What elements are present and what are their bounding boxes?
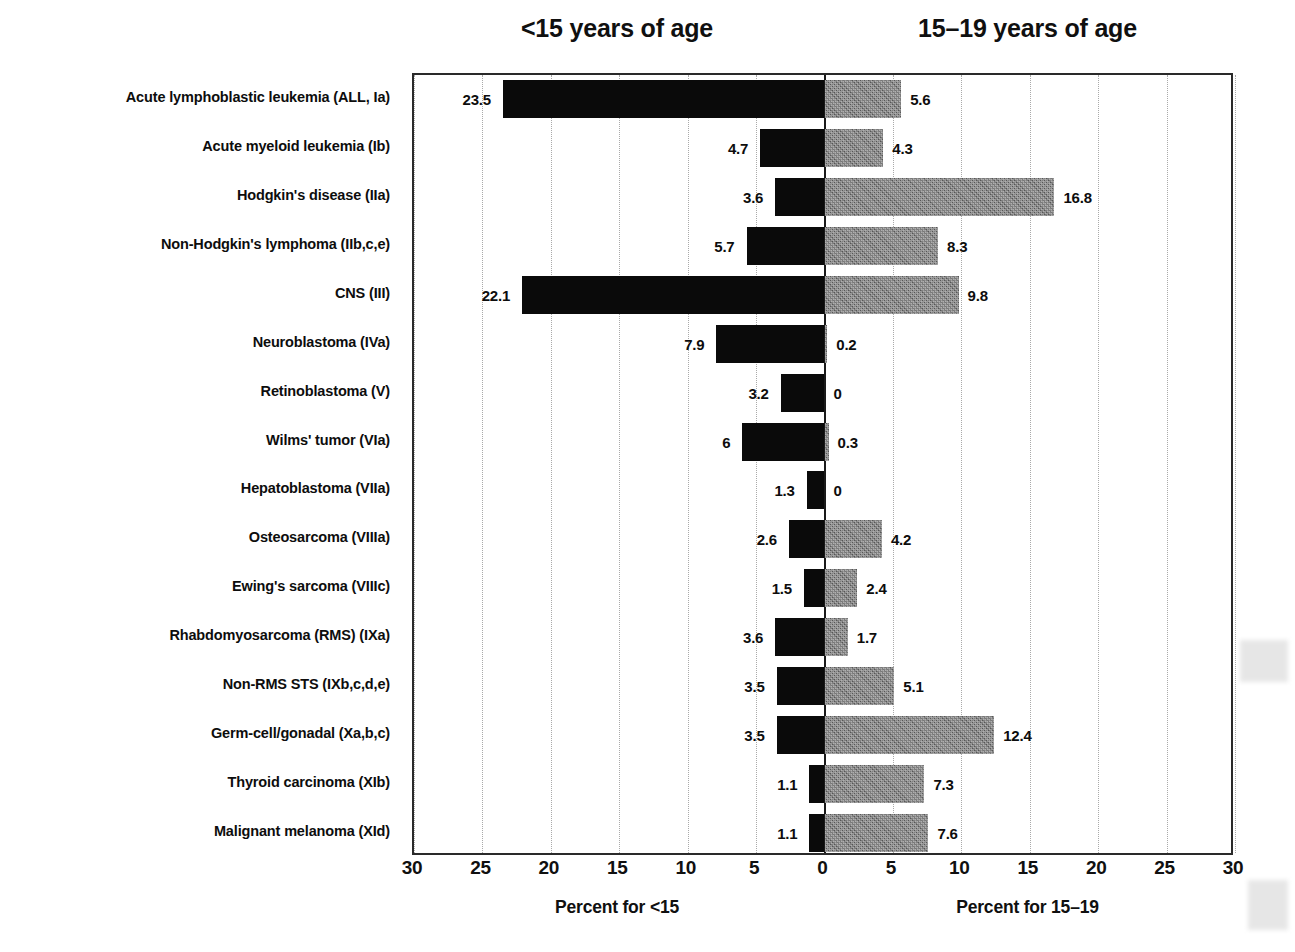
bar-value-label-left: 1.1: [777, 775, 797, 792]
bar-value-label-left: 3.5: [744, 677, 764, 694]
bar-right: [825, 618, 848, 656]
bar-left: [789, 520, 825, 558]
chart-row: 1.52.4: [414, 569, 1231, 607]
bar-right: [825, 227, 939, 265]
bar-value-label-left: 1.3: [774, 482, 794, 499]
bar-value-label-right: 8.3: [947, 238, 967, 255]
category-axis-labels: Acute lymphoblastic leukemia (ALL, Ia)Ac…: [0, 73, 400, 855]
bar-value-label-left: 5.7: [714, 238, 734, 255]
category-label: CNS (III): [335, 285, 390, 301]
bar-value-label-right: 0.2: [836, 335, 856, 352]
axis-title-left: Percent for <15: [412, 897, 822, 918]
chart-row: 4.74.3: [414, 129, 1231, 167]
chart-row: 1.17.6: [414, 814, 1231, 852]
bar-value-label-left: 3.6: [743, 189, 763, 206]
category-label: Germ-cell/gonadal (Xa,b,c): [211, 725, 390, 741]
category-label: Acute lymphoblastic leukemia (ALL, Ia): [126, 89, 390, 105]
bar-right: [825, 569, 858, 607]
bar-value-label-left: 1.1: [777, 824, 797, 841]
bar-value-label-left: 22.1: [482, 286, 510, 303]
x-tick-label: 30: [1223, 857, 1244, 879]
category-label: Acute myeloid leukemia (Ib): [202, 138, 390, 154]
bar-value-label-right: 12.4: [1003, 726, 1031, 743]
category-label: Neuroblastoma (IVa): [253, 334, 390, 350]
bar-right: [825, 520, 882, 558]
chart-row: 23.55.6: [414, 80, 1231, 118]
bar-value-label-left: 3.5: [744, 726, 764, 743]
bar-value-label-left: 23.5: [463, 91, 491, 108]
category-label: Non-Hodgkin's lymphoma (IIb,c,e): [161, 236, 390, 252]
column-header-right: 15–19 years of age: [822, 14, 1233, 43]
chart-row: 3.61.7: [414, 618, 1231, 656]
bar-value-label-right: 7.3: [933, 775, 953, 792]
x-axis-tick-labels: 30252015105051015202530: [412, 857, 1233, 891]
bar-value-label-right: 4.2: [891, 531, 911, 548]
scan-artifact: [1248, 880, 1288, 930]
category-label: Malignant melanoma (XId): [214, 823, 390, 839]
bar-value-label-right: 0: [834, 384, 842, 401]
bar-left: [716, 325, 824, 363]
x-tick-label: 0: [817, 857, 827, 879]
category-label: Hepatoblastoma (VIIa): [241, 480, 390, 496]
bar-value-label-right: 2.4: [866, 580, 886, 597]
bar-value-label-right: 16.8: [1063, 189, 1091, 206]
category-label: Osteosarcoma (VIIIa): [249, 529, 390, 545]
bar-value-label-left: 3.6: [743, 629, 763, 646]
x-tick-label: 10: [675, 857, 696, 879]
bar-value-label-right: 5.1: [903, 677, 923, 694]
chart-row: 2.64.2: [414, 520, 1231, 558]
x-tick-label: 15: [607, 857, 628, 879]
category-label: Wilms' tumor (VIa): [266, 432, 390, 448]
bar-right: [825, 423, 829, 461]
x-tick-label: 25: [1154, 857, 1175, 879]
chart-row: 3.512.4: [414, 716, 1231, 754]
chart-row: 60.3: [414, 423, 1231, 461]
x-tick-label: 5: [749, 857, 759, 879]
chart-row: 3.20: [414, 374, 1231, 412]
bar-value-label-left: 1.5: [772, 580, 792, 597]
bar-right: [825, 80, 902, 118]
x-tick-label: 15: [1017, 857, 1038, 879]
x-tick-label: 25: [470, 857, 491, 879]
bar-left: [809, 814, 824, 852]
bar-left: [807, 471, 825, 509]
x-tick-label: 20: [539, 857, 560, 879]
chart-container: <15 years of age 15–19 years of age Acut…: [0, 0, 1295, 952]
bar-right: [825, 667, 895, 705]
bar-left: [804, 569, 825, 607]
grid-line: [1235, 75, 1236, 853]
bar-value-label-left: 7.9: [684, 335, 704, 352]
bar-left: [775, 178, 824, 216]
chart-row: 7.90.2: [414, 325, 1231, 363]
bar-right: [825, 129, 884, 167]
bar-left: [503, 80, 825, 118]
bar-right: [825, 814, 929, 852]
chart-row: 1.30: [414, 471, 1231, 509]
bar-left: [760, 129, 824, 167]
x-tick-label: 30: [402, 857, 423, 879]
x-tick-label: 5: [886, 857, 896, 879]
bar-value-label-right: 9.8: [968, 286, 988, 303]
bar-left: [777, 667, 825, 705]
chart-row: 5.78.3: [414, 227, 1231, 265]
axis-title-right: Percent for 15–19: [822, 897, 1233, 918]
column-header-left: <15 years of age: [412, 14, 822, 43]
bar-value-label-right: 0: [834, 482, 842, 499]
bar-left: [742, 423, 824, 461]
plot-area: 23.55.64.74.33.616.85.78.322.19.87.90.23…: [412, 73, 1233, 855]
bar-value-label-right: 5.6: [910, 91, 930, 108]
category-label: Non-RMS STS (IXb,c,d,e): [223, 676, 390, 692]
bar-right: [825, 765, 925, 803]
bar-value-label-right: 4.3: [892, 140, 912, 157]
bar-left: [522, 276, 824, 314]
category-label: Hodgkin's disease (IIa): [237, 187, 390, 203]
bar-right: [825, 325, 828, 363]
chart-row: 3.616.8: [414, 178, 1231, 216]
bar-value-label-right: 1.7: [857, 629, 877, 646]
bar-left: [747, 227, 825, 265]
chart-row: 3.55.1: [414, 667, 1231, 705]
column-headers: <15 years of age 15–19 years of age: [0, 14, 1295, 54]
axis-titles: Percent for <15 Percent for 15–19: [0, 897, 1295, 927]
bar-left: [781, 374, 825, 412]
x-tick-label: 10: [949, 857, 970, 879]
